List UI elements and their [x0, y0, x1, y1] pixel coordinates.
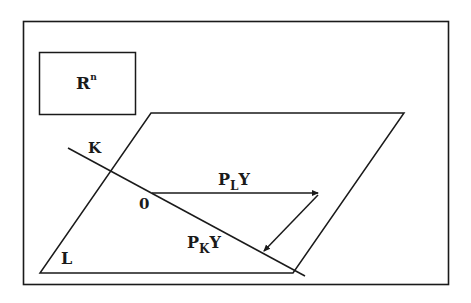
line-k [68, 148, 305, 276]
space-label: Rn [76, 72, 97, 93]
projection-diagram: Rn L K 0 PLY PKY [0, 0, 471, 303]
projection-k-label: PKY [187, 233, 221, 256]
projection-k-arrow [264, 195, 318, 251]
projection-l-label: PLY [218, 170, 250, 193]
origin-label: 0 [139, 195, 149, 213]
plane-l-label: L [61, 249, 72, 268]
line-k-label: K [88, 139, 102, 157]
